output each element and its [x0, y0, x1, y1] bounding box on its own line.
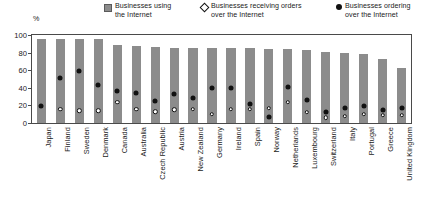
bar [37, 39, 46, 123]
y-axis-tick-label: 60 [5, 66, 27, 75]
bar-group [378, 35, 387, 123]
bar-group [226, 35, 235, 123]
black-circle-marker [266, 114, 271, 119]
legend-item-businesses-ordering: Businesses ordering over the Internet [336, 2, 422, 20]
black-circle-marker [285, 84, 290, 89]
x-axis-tick-label: Canada [120, 127, 129, 153]
bar-group [302, 35, 311, 123]
black-circle-marker [247, 101, 252, 106]
bar-group [113, 35, 122, 123]
y-axis-unit-label: % [33, 14, 39, 23]
x-axis-tick-label: Germany [215, 127, 224, 158]
black-circle-marker [77, 69, 82, 74]
black-circle-marker [58, 76, 63, 81]
bar-group [283, 35, 292, 123]
chart-figure: Businesses using the Internet Businesses… [0, 0, 425, 213]
y-axis-tick-label: 80 [5, 48, 27, 57]
x-axis-tick-label: Greece [386, 127, 395, 152]
bar-group [56, 35, 65, 123]
bar-group [170, 35, 179, 123]
chart-legend: Businesses using the Internet Businesses… [104, 2, 422, 28]
bar [264, 49, 273, 123]
x-axis-tick-label: Czech Republic [158, 127, 167, 180]
bar-group [151, 35, 160, 123]
black-circle-marker [380, 107, 385, 112]
bar-group [397, 35, 406, 123]
x-axis-tick-label: Ireland [234, 127, 243, 150]
x-axis-tick-label: Switzerland [329, 127, 338, 166]
black-circle-marker [210, 85, 215, 90]
bar-group [321, 35, 330, 123]
x-axis-tick-label: Italy [348, 127, 357, 141]
x-axis-tick-label: United Kingdom [405, 127, 414, 181]
x-axis-tick-label: Austria [177, 127, 186, 151]
bar-group [132, 35, 141, 123]
bar-group [207, 35, 216, 123]
x-axis-tick-label: Japan [44, 127, 53, 148]
x-axis-tick-label: Portugal [367, 127, 376, 155]
bar-group [340, 35, 349, 123]
black-circle-marker [323, 109, 328, 114]
black-circle-marker [304, 98, 309, 103]
legend-label: Businesses receiving orders over the Int… [211, 2, 302, 20]
bar [188, 48, 197, 123]
bar-group [188, 35, 197, 123]
plot-inner [32, 35, 411, 123]
black-circle-marker [153, 99, 158, 104]
plot-area [31, 34, 412, 124]
bar [113, 45, 122, 123]
bar [340, 53, 349, 123]
legend-label: Businesses using the Internet [115, 2, 171, 20]
y-axis-tick-label: 0 [5, 119, 27, 128]
x-axis-tick-label: Spain [253, 127, 262, 146]
x-axis-tick-label: Netherlands [291, 127, 300, 168]
bar [245, 48, 254, 123]
x-axis-tick-label: New Zealand [196, 127, 205, 171]
legend-label: Businesses ordering over the Internet [345, 2, 411, 20]
bar-group [37, 35, 46, 123]
black-circle-marker [134, 91, 139, 96]
x-axis-tick-label: Sweden [82, 127, 91, 154]
black-circle-marker [399, 106, 404, 111]
bar-group [359, 35, 368, 123]
gray-square-icon [104, 4, 112, 12]
x-axis-tick-label: Australia [139, 127, 148, 156]
bar [170, 48, 179, 123]
x-axis-tick-label: Denmark [101, 127, 110, 158]
bar [132, 46, 141, 123]
x-axis-tick-label: Luxembourg [310, 127, 319, 169]
y-axis-tick-label: 20 [5, 101, 27, 110]
x-axis-tick-label: Finland [63, 127, 72, 152]
black-circle-marker [191, 96, 196, 101]
bar-group [264, 35, 273, 123]
y-axis-tick-label: 100 [5, 31, 27, 40]
legend-item-businesses-receiving-orders: Businesses receiving orders over the Int… [200, 2, 336, 20]
bar-group [94, 35, 103, 123]
y-axis-tick-label: 40 [5, 83, 27, 92]
black-circle-marker [39, 104, 44, 109]
black-circle-icon [336, 4, 342, 10]
bar-group [75, 35, 84, 123]
x-axis-tick-label: Norway [272, 127, 281, 153]
black-circle-marker [172, 91, 177, 96]
legend-item-businesses-using-internet: Businesses using the Internet [104, 2, 200, 20]
white-diamond-icon [199, 3, 209, 13]
bar-group [245, 35, 254, 123]
black-circle-marker [361, 104, 366, 109]
black-circle-marker [96, 83, 101, 88]
black-circle-marker [342, 106, 347, 111]
black-circle-marker [115, 89, 120, 94]
black-circle-marker [228, 85, 233, 90]
